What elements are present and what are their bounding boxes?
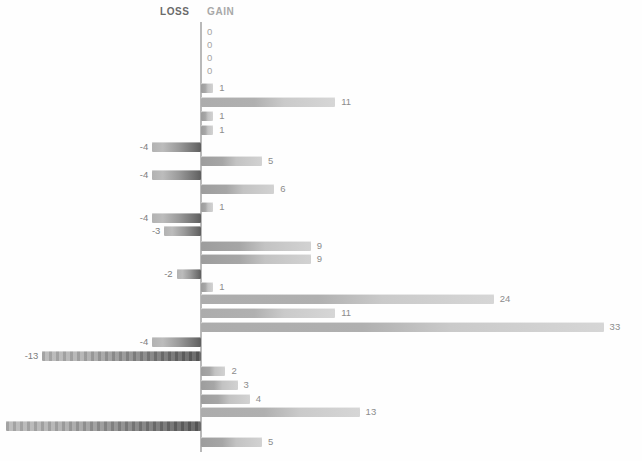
chart-row (0, 420, 642, 433)
gain-value-label: 11 (341, 307, 351, 319)
loss-bar (6, 421, 201, 431)
loss-value-label: -13 (16, 350, 38, 362)
gain-bar (201, 111, 213, 121)
chart-row: 0 (0, 26, 642, 39)
loss-bar (177, 269, 201, 279)
gain-bar (201, 380, 238, 390)
gain-bar (201, 308, 335, 318)
loss-axis-header: LOSS (160, 6, 190, 17)
gain-bar (201, 125, 213, 135)
chart-row: 11 (0, 96, 642, 109)
chart-row: -2 (0, 268, 642, 281)
chart-row: -4 (0, 141, 642, 154)
chart-row: 6 (0, 183, 642, 196)
gain-value-label: 5 (268, 436, 273, 448)
chart-row: 9 (0, 240, 642, 253)
gain-bar (201, 366, 225, 376)
gain-bar (201, 254, 311, 264)
gain-value-label: 0 (207, 26, 212, 38)
gain-value-label: 4 (256, 393, 261, 405)
chart-row: 5 (0, 436, 642, 449)
chart-row: -4 (0, 336, 642, 349)
gain-axis-header: GAIN (207, 6, 234, 17)
gain-value-label: 0 (207, 52, 212, 64)
gain-bar (201, 437, 262, 447)
gain-value-label: 9 (317, 240, 322, 252)
tornado-chart: LOSS GAIN 000011111-45-461-4-399-2124113… (0, 0, 642, 461)
gain-bar (201, 241, 311, 251)
chart-row: 11 (0, 307, 642, 320)
chart-row: -13 (0, 350, 642, 363)
loss-bar (164, 226, 201, 236)
gain-bar (201, 322, 604, 332)
loss-bar (152, 170, 201, 180)
gain-value-label: 5 (268, 155, 273, 167)
gain-value-label: 2 (231, 365, 236, 377)
loss-bar (152, 142, 201, 152)
chart-row: 5 (0, 155, 642, 168)
loss-value-label: -3 (138, 225, 160, 237)
chart-row: 9 (0, 253, 642, 266)
gain-bar (201, 97, 335, 107)
gain-value-label: 24 (500, 293, 511, 305)
gain-value-label: 1 (219, 281, 224, 293)
loss-value-label: -2 (151, 268, 173, 280)
loss-bar (42, 351, 201, 361)
gain-value-label: 11 (341, 96, 351, 108)
gain-bar (201, 394, 250, 404)
loss-value-label: -4 (126, 169, 148, 181)
loss-bar (152, 337, 201, 347)
gain-value-label: 6 (280, 183, 285, 195)
gain-bar (201, 156, 262, 166)
chart-row: 0 (0, 39, 642, 52)
gain-bar (201, 184, 274, 194)
gain-value-label: 1 (219, 82, 224, 94)
gain-value-label: 33 (610, 321, 621, 333)
gain-value-label: 3 (244, 379, 249, 391)
chart-row: -4 (0, 169, 642, 182)
chart-row: 3 (0, 379, 642, 392)
loss-value-label: -4 (126, 141, 148, 153)
gain-bar (201, 294, 494, 304)
gain-bar (201, 202, 213, 212)
chart-row: 1 (0, 82, 642, 95)
gain-value-label: 13 (366, 406, 377, 418)
chart-row: -4 (0, 212, 642, 225)
gain-value-label: 0 (207, 65, 212, 77)
chart-row: 0 (0, 52, 642, 65)
gain-value-label: 1 (219, 110, 224, 122)
loss-value-label: -4 (126, 212, 148, 224)
chart-row: -3 (0, 225, 642, 238)
chart-row: 1 (0, 110, 642, 123)
chart-row: 13 (0, 406, 642, 419)
chart-row: 33 (0, 321, 642, 334)
loss-bar (152, 213, 201, 223)
gain-bar (201, 282, 213, 292)
gain-value-label: 1 (219, 124, 224, 136)
gain-bar (201, 83, 213, 93)
chart-row: 24 (0, 293, 642, 306)
gain-bar (201, 407, 360, 417)
chart-row: 1 (0, 124, 642, 137)
loss-value-label: -4 (126, 336, 148, 348)
chart-row: 2 (0, 365, 642, 378)
gain-value-label: 9 (317, 253, 322, 265)
chart-row: 4 (0, 393, 642, 406)
chart-row: 0 (0, 65, 642, 78)
gain-value-label: 0 (207, 39, 212, 51)
